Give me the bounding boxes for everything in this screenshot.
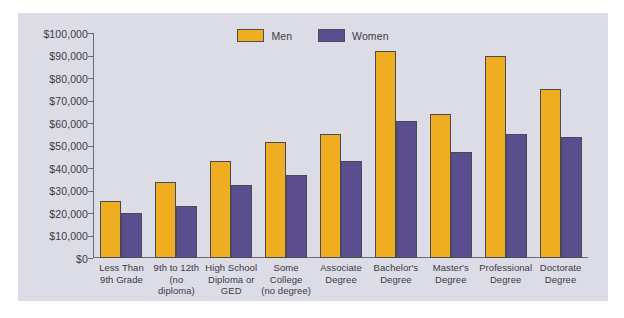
bar-group bbox=[478, 33, 533, 258]
bar-women[interactable] bbox=[231, 185, 252, 258]
y-tick-mark bbox=[88, 168, 93, 169]
y-tick-mark bbox=[88, 33, 93, 34]
bar-men[interactable] bbox=[210, 161, 231, 258]
y-tick-label: $50,000 bbox=[49, 140, 88, 152]
y-tick-label: $60,000 bbox=[49, 118, 88, 130]
bar-groups bbox=[94, 33, 588, 258]
y-tick-mark bbox=[88, 146, 93, 147]
y-tick-label: $80,000 bbox=[49, 73, 88, 85]
x-axis-category-label: AssociateDegree bbox=[314, 262, 369, 297]
bar-men[interactable] bbox=[375, 51, 396, 258]
y-tick-mark bbox=[88, 213, 93, 214]
bar-group bbox=[259, 33, 314, 258]
y-tick-label: $100,000 bbox=[43, 28, 88, 40]
y-tick-label: $40,000 bbox=[49, 163, 88, 175]
bar-women[interactable] bbox=[506, 134, 527, 258]
bar-women[interactable] bbox=[176, 206, 197, 258]
bar-group bbox=[368, 33, 423, 258]
y-tick-label: $0 bbox=[76, 253, 88, 265]
y-tick-label: $70,000 bbox=[49, 95, 88, 107]
x-axis-category-label: DoctorateDegree bbox=[533, 262, 588, 297]
x-axis-category-label: High SchoolDiploma orGED bbox=[204, 262, 259, 297]
y-tick-label: $30,000 bbox=[49, 185, 88, 197]
bar-group bbox=[149, 33, 204, 258]
bar-men[interactable] bbox=[320, 134, 341, 258]
y-tick-mark bbox=[88, 101, 93, 102]
y-tick-label: $10,000 bbox=[49, 230, 88, 242]
y-tick: $0 bbox=[93, 258, 94, 259]
bar-women[interactable] bbox=[286, 175, 307, 258]
y-tick-mark bbox=[88, 56, 93, 57]
bar-women[interactable] bbox=[396, 121, 417, 258]
bar-men[interactable] bbox=[540, 89, 561, 258]
x-axis-category-label: Less Than9th Grade bbox=[94, 262, 149, 297]
bar-group bbox=[533, 33, 588, 258]
chart-panel: Men Women $100,000$90,000$80,000$70,000$… bbox=[18, 13, 608, 301]
bar-men[interactable] bbox=[100, 201, 121, 258]
bar-men[interactable] bbox=[155, 182, 176, 259]
bar-group bbox=[94, 33, 149, 258]
bar-group bbox=[423, 33, 478, 258]
y-tick-mark bbox=[88, 78, 93, 79]
bar-women[interactable] bbox=[451, 152, 472, 258]
bar-women[interactable] bbox=[121, 213, 142, 258]
bar-men[interactable] bbox=[430, 114, 451, 258]
bar-men[interactable] bbox=[265, 142, 286, 258]
bar-women[interactable] bbox=[341, 161, 362, 258]
x-axis-category-label: Master'sDegree bbox=[423, 262, 478, 297]
y-tick-mark bbox=[88, 191, 93, 192]
x-axis-category-label: Bachelor'sDegree bbox=[368, 262, 423, 297]
y-tick-label: $90,000 bbox=[49, 50, 88, 62]
bar-men[interactable] bbox=[485, 56, 506, 259]
x-axis-category-label: ProfessionalDegree bbox=[478, 262, 533, 297]
y-tick-mark bbox=[88, 236, 93, 237]
bar-group bbox=[314, 33, 369, 258]
x-axis-category-label: SomeCollege(no degree) bbox=[259, 262, 314, 297]
x-axis-category-label: 9th to 12th(no diploma) bbox=[149, 262, 204, 297]
bar-group bbox=[204, 33, 259, 258]
y-tick-label: $20,000 bbox=[49, 208, 88, 220]
y-tick-mark bbox=[88, 123, 93, 124]
bar-women[interactable] bbox=[561, 137, 582, 259]
x-axis-category-labels: Less Than9th Grade9th to 12th(no diploma… bbox=[94, 262, 588, 297]
y-tick-mark bbox=[88, 258, 93, 259]
plot-area: $100,000$90,000$80,000$70,000$60,000$50,… bbox=[93, 33, 588, 258]
